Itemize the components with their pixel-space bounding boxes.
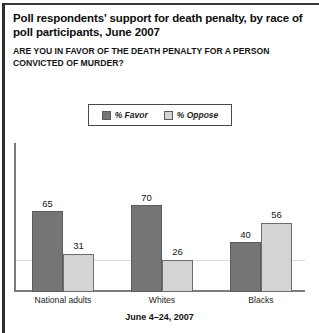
bar-value-national-favor: 65: [28, 198, 68, 209]
category-label-whites: Whites: [107, 295, 217, 305]
bar-national-oppose[interactable]: [63, 254, 94, 292]
bar-value-whites-oppose: 26: [158, 246, 198, 257]
bar-group-bars: 40 56: [230, 140, 292, 292]
plot-area: 65 31 National adults 70 26: [14, 140, 306, 292]
legend-swatch-oppose-icon: [164, 111, 173, 120]
bar-slot-favor: 65: [32, 140, 63, 292]
page-title: Poll respondents' support for death pena…: [13, 12, 305, 39]
bar-group-bars: 70 26: [131, 140, 193, 292]
bar-national-favor[interactable]: [32, 211, 63, 292]
bar-slot-favor: 70: [131, 140, 162, 292]
bar-whites-oppose[interactable]: [162, 260, 193, 292]
bar-slot-oppose: 31: [63, 140, 94, 292]
bar-blacks-oppose[interactable]: [261, 223, 292, 292]
chart-footer-note: June 4–24, 2007: [0, 312, 319, 322]
bar-value-blacks-oppose: 56: [257, 209, 297, 220]
chart-subtitle: ARE YOU IN FAVOR OF THE DEATH PENALTY FO…: [13, 46, 305, 69]
page-left-rule: [2, 3, 5, 333]
bar-slot-oppose: 26: [162, 140, 193, 292]
legend-entry-oppose: % Oppose: [164, 110, 219, 120]
chart-page: Poll respondents' support for death pena…: [0, 0, 319, 333]
chart-legend: % Favor % Oppose: [88, 104, 232, 126]
category-label-blacks: Blacks: [206, 295, 316, 305]
legend-label-favor: % Favor: [115, 110, 148, 120]
bar-slot-oppose: 56: [261, 140, 292, 292]
bar-value-national-oppose: 31: [59, 240, 99, 251]
bar-value-blacks-favor: 40: [226, 229, 266, 240]
legend-swatch-favor-icon: [102, 111, 111, 120]
bar-value-whites-favor: 70: [127, 192, 167, 203]
bar-blacks-favor[interactable]: [230, 242, 261, 292]
bar-group-bars: 65 31: [32, 140, 94, 292]
category-label-national-adults: National adults: [8, 295, 118, 305]
page-top-rule: [2, 3, 319, 5]
legend-entry-favor: % Favor: [102, 110, 148, 120]
legend-label-oppose: % Oppose: [177, 110, 219, 120]
